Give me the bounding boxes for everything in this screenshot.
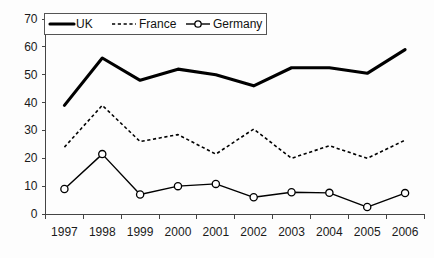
series-line-germany [64, 154, 405, 207]
x-tick-label: 1997 [51, 225, 78, 239]
data-point-marker [61, 185, 68, 192]
x-tick-label: 1998 [89, 225, 116, 239]
x-axis: 1997199819992000200120022003200420052006 [46, 214, 425, 239]
data-point-marker [250, 194, 257, 201]
plot-series-group [61, 50, 409, 211]
y-tick-label: 30 [24, 123, 38, 137]
y-tick-label: 20 [24, 151, 38, 165]
data-point-marker [174, 183, 181, 190]
y-axis: 010203040506070 [24, 12, 45, 221]
data-point-marker [364, 203, 371, 210]
y-tick-label: 70 [24, 12, 38, 26]
y-tick-label: 50 [24, 68, 38, 82]
legend-marker-germany-circle [195, 21, 201, 27]
x-tick-label: 2006 [392, 225, 419, 239]
data-point-marker [326, 189, 333, 196]
data-point-marker [137, 191, 144, 198]
y-tick-label: 10 [24, 179, 38, 193]
series-markers-germany [61, 151, 409, 211]
y-tick-label: 0 [31, 207, 38, 221]
line-chart: 010203040506070 199719981999200020012002… [0, 0, 434, 258]
legend-label-germany: Germany [213, 17, 262, 31]
data-point-marker [288, 189, 295, 196]
x-tick-label: 2000 [165, 225, 192, 239]
series-line-uk [64, 50, 405, 106]
x-tick-label: 2001 [202, 225, 229, 239]
y-tick-labels: 010203040506070 [24, 12, 38, 221]
data-point-marker [401, 190, 408, 197]
x-tick-labels: 1997199819992000200120022003200420052006 [51, 225, 419, 239]
data-point-marker [212, 180, 219, 187]
legend-label-uk: UK [76, 17, 93, 31]
chart-canvas: 010203040506070 199719981999200020012002… [0, 0, 434, 258]
x-tick-label: 1999 [127, 225, 154, 239]
chart-legend: UK France Germany [45, 14, 267, 35]
x-tick-label: 2003 [278, 225, 305, 239]
data-point-marker [99, 151, 106, 158]
legend-label-france: France [139, 17, 177, 31]
series-line-france [64, 105, 405, 158]
y-tick-label: 60 [24, 40, 38, 54]
x-tick-label: 2004 [316, 225, 343, 239]
x-tick-label: 2002 [240, 225, 267, 239]
x-tick-label: 2005 [354, 225, 381, 239]
y-tick-label: 40 [24, 96, 38, 110]
y-tick-marks [42, 19, 46, 214]
